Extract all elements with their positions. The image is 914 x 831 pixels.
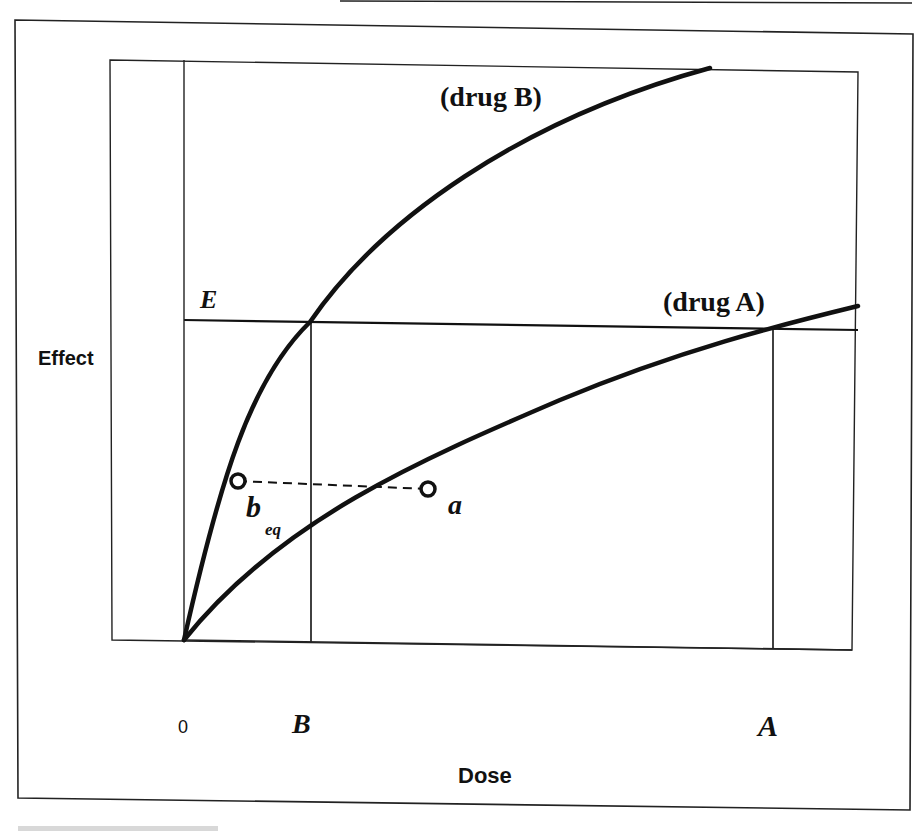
origin-label: 0 bbox=[178, 717, 188, 737]
cut-off-caption bbox=[18, 826, 218, 831]
effect-level-label: E bbox=[199, 285, 217, 314]
x-axis-label: Dose bbox=[458, 763, 512, 788]
drug-a-label: (drug A) bbox=[663, 286, 765, 317]
drug-b-curve bbox=[184, 68, 710, 640]
plot-frame bbox=[110, 60, 858, 650]
y-axis-label: Effect bbox=[38, 347, 94, 369]
dose-b-tick-label: B bbox=[291, 708, 311, 739]
outer-frame bbox=[15, 20, 913, 810]
point-b-eq-subscript: eq bbox=[265, 520, 282, 539]
point-b-eq bbox=[231, 474, 245, 488]
effect-level-line bbox=[184, 320, 858, 330]
drug-b-label: (drug B) bbox=[440, 81, 542, 112]
point-a bbox=[421, 482, 435, 496]
dose-a-tick-label: A bbox=[756, 709, 778, 742]
point-a-label: a bbox=[448, 489, 462, 520]
drug-a-curve bbox=[184, 306, 858, 640]
dose-effect-figure: (drug B) (drug A) E Effect Dose 0 B A a … bbox=[0, 0, 914, 831]
top-rule bbox=[340, 1, 912, 3]
x-axis bbox=[184, 640, 852, 650]
equieffective-dashed-line bbox=[238, 481, 428, 489]
point-b-eq-label: b bbox=[246, 490, 261, 523]
